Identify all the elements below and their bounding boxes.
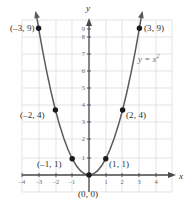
- x-tick-label: 1: [104, 178, 107, 185]
- data-point[interactable]: [103, 156, 108, 161]
- data-point[interactable]: [53, 107, 58, 112]
- y-tick-labels: 1 2 3 4 5 6 7 8 9: [82, 25, 86, 161]
- point-label-2-4: (2, 4): [126, 110, 146, 120]
- x-tick-label: 4: [154, 178, 158, 185]
- equation-label: y = x2: [138, 54, 160, 64]
- y-tick-label: 7: [82, 50, 86, 57]
- x-axis: [22, 172, 176, 178]
- x-tick-label: –1: [68, 178, 76, 185]
- y-axis-name: y: [86, 3, 90, 13]
- y-tick-label: 3: [82, 118, 85, 125]
- data-point[interactable]: [137, 26, 142, 31]
- x-tick-labels: –4 –3 –2 –1 1 2 3 4: [18, 178, 159, 185]
- equation-text: y = x: [138, 54, 157, 64]
- x-tick-label: –3: [35, 178, 43, 185]
- graph-figure: –4 –3 –2 –1 1 2 3 4 1 2 3 4 5 6 7 8 9: [0, 0, 192, 210]
- point-label-neg3-9: (–3, 9): [10, 23, 35, 33]
- point-label-1-1: (1, 1): [109, 159, 129, 169]
- y-tick-label: 8: [82, 33, 85, 40]
- data-point[interactable]: [70, 156, 75, 161]
- data-point[interactable]: [86, 172, 91, 177]
- x-tick-label: 3: [137, 178, 140, 185]
- point-label-origin: (0, 0): [78, 189, 98, 199]
- y-tick-label: 1: [82, 154, 85, 161]
- equation-exponent: 2: [157, 53, 160, 59]
- y-tick-label: 6: [82, 67, 86, 74]
- y-tick-label: 4: [82, 101, 86, 108]
- y-tick-label: 2: [82, 135, 85, 142]
- x-tick-label: –2: [52, 178, 60, 185]
- x-tick-label: –4: [18, 178, 26, 185]
- point-label-neg2-4: (–2, 4): [20, 110, 45, 120]
- y-tick-label: 9: [82, 25, 85, 32]
- point-label-neg1-1: (–1, 1): [37, 159, 62, 169]
- data-point[interactable]: [120, 107, 125, 112]
- x-axis-name: x: [179, 171, 183, 181]
- y-tick-label: 5: [82, 84, 85, 91]
- data-point[interactable]: [36, 26, 41, 31]
- point-label-3-9: (3, 9): [144, 23, 164, 33]
- x-tick-label: 2: [120, 178, 123, 185]
